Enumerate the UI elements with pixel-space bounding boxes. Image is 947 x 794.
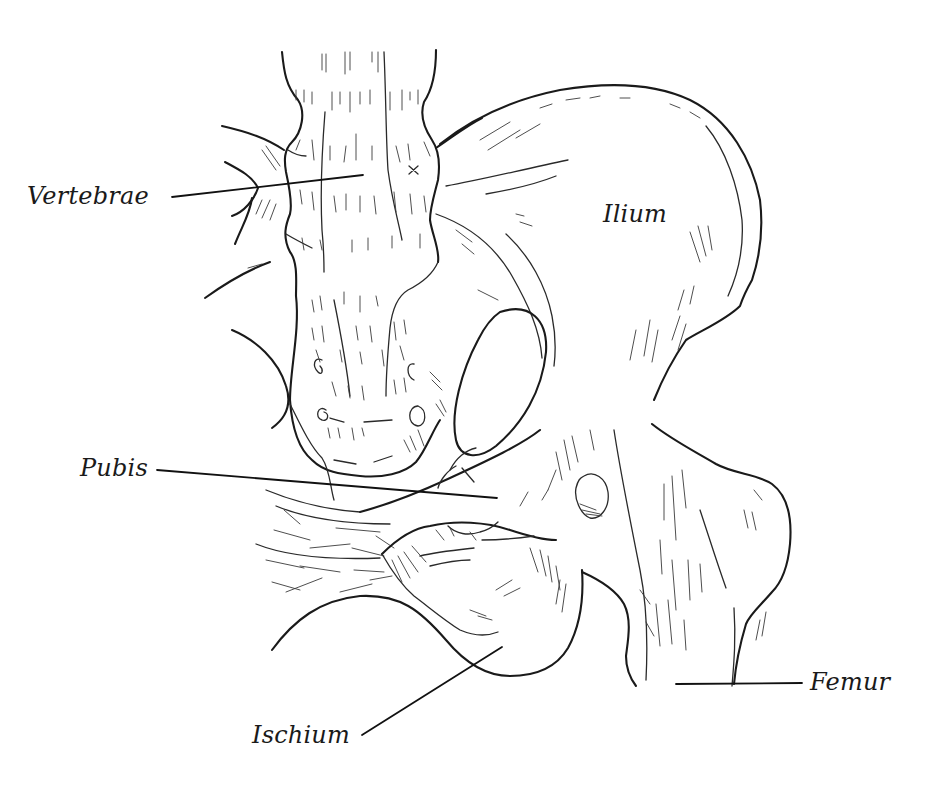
left-iliac-fragments (205, 262, 334, 500)
label-pubis: Pubis (80, 456, 148, 480)
pelvis-anatomy-drawing (0, 0, 947, 794)
label-femur: Femur (810, 670, 890, 694)
pubic-symphysis (256, 490, 582, 676)
vertebral-column (222, 50, 482, 296)
label-ischium: Ischium (252, 723, 350, 747)
ischium (382, 522, 566, 635)
sacrum (290, 262, 446, 476)
femur (582, 424, 790, 686)
label-ilium: Ilium (603, 202, 667, 226)
label-vertebrae: Vertebrae (27, 184, 149, 208)
ilium (436, 85, 761, 400)
acetabulum-region (360, 309, 608, 518)
femur-leader-line (676, 683, 802, 684)
ischium-leader-line (362, 647, 502, 735)
vertebrae-leader-line (172, 175, 363, 197)
